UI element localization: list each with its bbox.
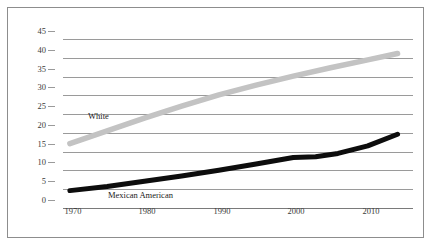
series-line-white bbox=[70, 54, 398, 144]
line-chart: 45 40 35 30 25 20 15 10 5 0 1970 1980 19… bbox=[0, 0, 432, 246]
series-label-mexican-american: Mexican American bbox=[108, 191, 173, 200]
series-label-white: White bbox=[88, 112, 109, 121]
series-layer bbox=[0, 0, 432, 246]
series-line-mexican-american bbox=[70, 134, 398, 190]
